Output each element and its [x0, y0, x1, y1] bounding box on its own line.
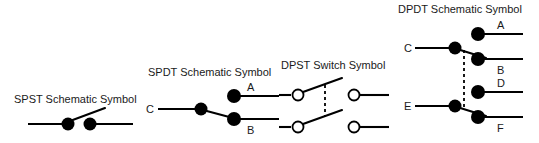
dpdt-contact-node-d [471, 85, 485, 99]
dpdt-contact-node-b [471, 52, 485, 66]
switch-symbols-diagram: SPST Schematic Symbol SPDT Schematic Sym… [0, 0, 539, 143]
dpdt-title: DPDT Schematic Symbol [398, 3, 522, 15]
spdt-terminal-label-b: B [247, 124, 254, 136]
dpdt-terminal-label-c: C [404, 42, 412, 54]
dpdt-terminal-label-b: B [497, 64, 504, 76]
spst-right-contact-node [84, 118, 97, 131]
spdt-contact-node-a [227, 89, 241, 103]
dpdt-terminal-label-d: D [497, 77, 505, 89]
dpst-pole2-left-terminal [293, 122, 304, 133]
dpst-pole2-right-terminal [349, 122, 360, 133]
dpdt-pole2-common-node [449, 100, 462, 113]
spdt-contact-node-b [227, 112, 241, 126]
dpdt-terminal-label-e: E [404, 100, 411, 112]
dpdt-terminal-label-f: F [497, 122, 504, 134]
dpst-pole1-left-terminal [293, 90, 304, 101]
dpst-pole2-blade [303, 110, 342, 124]
spst-title: SPST Schematic Symbol [14, 93, 137, 105]
dpdt-terminal-label-a: A [497, 19, 505, 31]
spdt-title: SPDT Schematic Symbol [148, 66, 271, 78]
spdt-common-node [195, 103, 208, 116]
dpst-pole1-right-terminal [349, 90, 360, 101]
spdt-symbol-group: SPDT Schematic Symbol C A B [146, 66, 279, 136]
dpdt-symbol-group: DPDT Schematic Symbol C A B E D F [398, 3, 523, 134]
spdt-terminal-label-c: C [146, 103, 154, 115]
dpst-symbol-group: DPST Switch Symbol [279, 59, 389, 133]
spst-symbol-group: SPST Schematic Symbol [14, 93, 137, 131]
dpdt-contact-node-f [471, 110, 485, 124]
dpst-pole1-blade [303, 78, 342, 92]
dpdt-pole1-common-node [449, 42, 462, 55]
dpdt-contact-node-a [471, 27, 485, 41]
spdt-terminal-label-a: A [247, 81, 255, 93]
dpst-title: DPST Switch Symbol [281, 59, 385, 71]
